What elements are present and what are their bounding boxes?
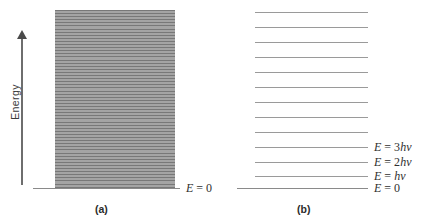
energy-level-line [255, 72, 368, 73]
energy-axis-label: Energy [9, 62, 21, 142]
baseline-panel-a [33, 188, 180, 189]
energy-axis-line [21, 33, 23, 185]
energy-level-line [255, 12, 368, 13]
caption-panel-b: (b) [297, 203, 310, 215]
energy-level-line [255, 147, 368, 148]
continuum-block [55, 10, 175, 188]
energy-level-line [255, 87, 368, 88]
energy-level-line [255, 102, 368, 103]
energy-level-label: E = 3hν [374, 140, 411, 155]
panel-a-zero-label: E = 0 [186, 181, 212, 196]
energy-level-line [255, 176, 368, 177]
energy-level-figure: Energy E = 0 (a) E = 3hνE = 2hνE = hν E … [0, 0, 430, 223]
energy-level-line [255, 27, 368, 28]
baseline-panel-b [237, 188, 368, 189]
up-arrow-icon [17, 30, 27, 39]
energy-level-line [255, 132, 368, 133]
energy-level-line [255, 57, 368, 58]
energy-level-line [255, 42, 368, 43]
energy-level-label: E = 2hν [374, 155, 411, 170]
panel-b-zero-label: E = 0 [374, 181, 400, 196]
energy-level-line [255, 117, 368, 118]
energy-level-line [255, 162, 368, 163]
caption-panel-a: (a) [95, 203, 108, 215]
